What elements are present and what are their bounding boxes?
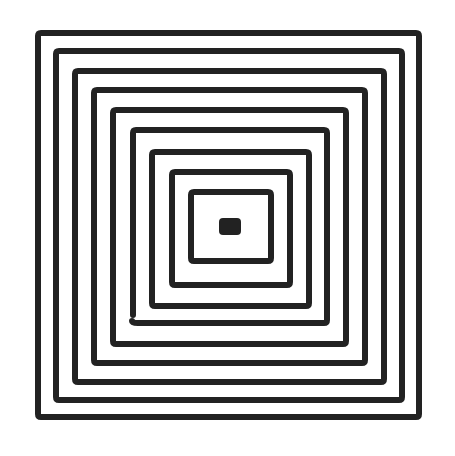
concentric-squares-figure bbox=[0, 0, 455, 456]
concentric-squares-drawing bbox=[0, 0, 455, 456]
center-dot bbox=[219, 218, 241, 235]
